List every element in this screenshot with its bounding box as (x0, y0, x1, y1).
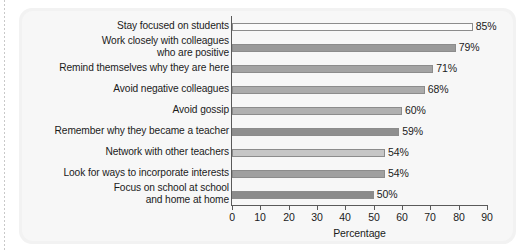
x-axis-tick (345, 206, 346, 210)
x-axis-tick (487, 206, 488, 210)
x-axis-tick (374, 206, 375, 210)
x-axis-tick-label: 80 (444, 211, 474, 223)
category-label: Remind themselves why they are here (59, 62, 229, 74)
bar (232, 128, 399, 136)
bar-value-label: 54% (388, 168, 409, 179)
bar (232, 191, 374, 199)
x-axis-tick (430, 206, 431, 210)
bar-value-label: 71% (436, 63, 457, 74)
x-axis-tick (289, 206, 290, 210)
bar (232, 44, 456, 52)
x-axis-title: Percentage (231, 227, 488, 239)
bar (232, 86, 425, 94)
x-axis-tick-label: 50 (359, 211, 389, 223)
bar (232, 23, 473, 31)
x-axis-tick-label: 70 (415, 211, 445, 223)
x-axis-line (231, 205, 488, 206)
chart-figure: Percentage 85%Stay focused on students79… (0, 0, 523, 251)
category-label: Work closely with colleagues who are pos… (102, 35, 229, 58)
x-axis-tick (317, 206, 318, 210)
chart-plot-area: Percentage 85%Stay focused on students79… (0, 0, 523, 251)
bar (232, 107, 402, 115)
bar-value-label: 60% (405, 105, 426, 116)
x-axis-tick-label: 30 (302, 211, 332, 223)
x-axis-tick-label: 20 (274, 211, 304, 223)
x-axis-tick-label: 60 (387, 211, 417, 223)
bar-value-label: 79% (459, 42, 480, 53)
bar (232, 149, 385, 157)
x-axis-tick-label: 0 (217, 211, 247, 223)
bar-value-label: 59% (402, 126, 423, 137)
x-axis-tick (402, 206, 403, 210)
x-axis-tick (232, 206, 233, 210)
bar-value-label: 68% (428, 84, 449, 95)
x-axis-tick-label: 10 (245, 211, 275, 223)
x-axis-tick (459, 206, 460, 210)
bar (232, 65, 433, 73)
bar-value-label: 50% (377, 189, 398, 200)
x-axis-tick-label: 40 (330, 211, 360, 223)
category-label: Focus on school at school and home at ho… (114, 182, 229, 205)
bar (232, 170, 385, 178)
category-label: Stay focused on students (117, 20, 229, 32)
category-label: Look for ways to incorporate interests (63, 167, 229, 179)
x-axis-tick-label: 90 (472, 211, 502, 223)
bar-value-label: 85% (476, 21, 497, 32)
category-label: Avoid gossip (173, 104, 229, 116)
category-label: Avoid negative colleagues (113, 83, 229, 95)
bar-value-label: 54% (388, 147, 409, 158)
category-label: Remember why they became a teacher (55, 125, 229, 137)
category-label: Network with other teachers (105, 146, 229, 158)
x-axis-tick (260, 206, 261, 210)
